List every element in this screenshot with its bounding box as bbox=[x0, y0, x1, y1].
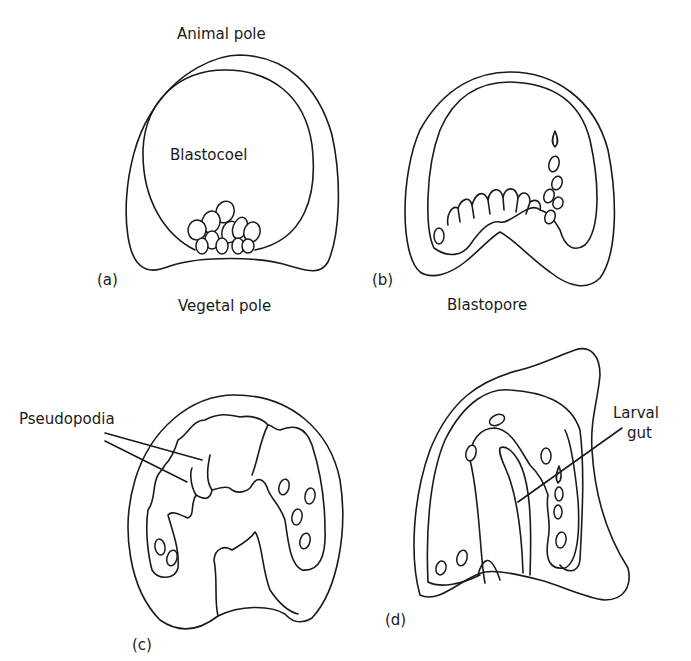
panel-b-mesenchyme-cells bbox=[434, 131, 565, 244]
panel-b-archenteron-folds bbox=[448, 189, 541, 225]
panel-b-inner-wall bbox=[428, 82, 597, 254]
panel-c-pseudopodia-leader-2 bbox=[105, 441, 187, 482]
panel-a-mesenchyme-cells bbox=[186, 199, 262, 254]
panel-d-larval-gut bbox=[500, 447, 531, 575]
panel-d-gut-label: gut bbox=[627, 424, 652, 442]
panel-c-pseudopodia-label: Pseudopodia bbox=[19, 410, 115, 428]
panel-a-vegetal-pole-label: Vegetal pole bbox=[178, 297, 271, 315]
panel-d-outer-wall bbox=[414, 349, 629, 600]
panel-d-inner-wall bbox=[470, 428, 579, 583]
panel-c-gastrula-pseudopodia: Pseudopodia (c) bbox=[19, 395, 343, 654]
panel-c-label: (c) bbox=[132, 636, 152, 654]
panel-c-pseudopodia-leader-1 bbox=[105, 433, 202, 460]
panel-b-label: (b) bbox=[372, 271, 393, 289]
panel-c-outer-wall bbox=[128, 395, 343, 629]
panel-b-gastrula: (b) Blastopore bbox=[372, 72, 614, 314]
panel-d-larval-gut-leader bbox=[518, 428, 622, 502]
panel-c-archenteron bbox=[214, 532, 298, 616]
panel-d-larval-label: Larval bbox=[613, 404, 659, 422]
panel-a-blastula: Animal pole Blastocoel (a) Vegetal pole bbox=[97, 25, 338, 315]
panel-d-prism-larva: Larval gut (d) bbox=[385, 349, 659, 629]
panel-d-label: (d) bbox=[385, 611, 406, 629]
embryo-development-diagram: Animal pole Blastocoel (a) Vegetal pole … bbox=[0, 0, 691, 661]
panel-b-blastopore-label: Blastopore bbox=[447, 296, 527, 314]
panel-a-animal-pole-label: Animal pole bbox=[177, 25, 266, 43]
panel-a-blastocoel-label: Blastocoel bbox=[170, 146, 247, 164]
panel-b-outer-wall bbox=[405, 72, 614, 286]
panel-a-label: (a) bbox=[97, 271, 118, 289]
